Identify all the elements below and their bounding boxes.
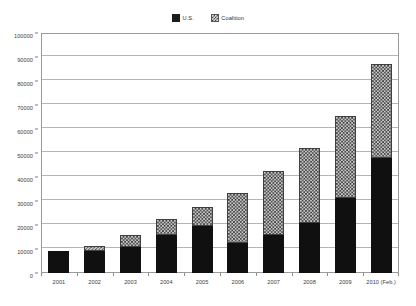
x-axis-tick-label: 2001 [53, 279, 66, 285]
gridline [42, 55, 398, 56]
x-axis-tick-mark [292, 273, 293, 276]
x-axis-tick-mark [220, 273, 221, 276]
stacked-bar-chart: U.S. Coalition 0100002000030000400005000… [0, 0, 416, 306]
x-axis-tick-mark [77, 273, 78, 276]
x-axis-tick-mark [256, 273, 257, 276]
x-axis-tick-label: 2008 [303, 279, 316, 285]
x-axis-tick-label: 2007 [267, 279, 280, 285]
x-axis-tick-mark [184, 273, 185, 276]
plot-area [41, 33, 399, 273]
x-axis-tick-mark [327, 273, 328, 276]
legend-swatch-solid-black-icon [172, 14, 180, 22]
x-axis-tick-label: 2005 [196, 279, 209, 285]
gridline [42, 247, 398, 248]
x-axis-tick-mark [363, 273, 364, 276]
chart-legend: U.S. Coalition [0, 11, 416, 25]
x-axis-tick-label: 2006 [232, 279, 245, 285]
x-axis-tick-label: 2004 [160, 279, 173, 285]
x-axis-tick-label: 2010 (Feb.) [366, 279, 395, 285]
gridline [42, 103, 398, 104]
y-axis-tick-mark [35, 81, 38, 82]
x-axis-tick-mark [148, 273, 149, 276]
y-axis-tick-mark [35, 153, 38, 154]
x-axis-tick-label: 2002 [88, 279, 101, 285]
gridline [42, 199, 398, 200]
x-axis-tick-mark [398, 273, 399, 276]
y-axis-tick-mark [35, 33, 38, 34]
legend-swatch-hatched-icon [211, 14, 219, 22]
gridline [42, 127, 398, 128]
legend-item-coalition: Coalition [211, 14, 244, 22]
gridline [42, 223, 398, 224]
figure-caption [48, 297, 408, 306]
x-axis-tick-label: 2003 [124, 279, 137, 285]
x-axis: 2001200220032004200520062007200820092010… [41, 273, 399, 295]
y-axis-tick-mark [35, 57, 38, 58]
x-axis-tick-label: 2009 [339, 279, 352, 285]
x-axis-tick-mark [113, 273, 114, 276]
y-axis-tick-mark [35, 105, 38, 106]
y-axis-tick-mark [35, 225, 38, 226]
y-axis-tick-mark [35, 129, 38, 130]
legend-item-us: U.S. [172, 14, 194, 22]
gridline [42, 175, 398, 176]
legend-label-coalition: Coalition [221, 15, 244, 21]
gridline [42, 151, 398, 152]
x-axis-tick-mark [41, 273, 42, 276]
legend-label-us: U.S. [183, 15, 194, 21]
y-axis-tick-mark [35, 249, 38, 250]
gridline [42, 79, 398, 80]
y-axis: 0100002000030000400005000060000700008000… [0, 33, 38, 273]
y-axis-tick-mark [35, 177, 38, 178]
y-axis-tick-mark [35, 201, 38, 202]
y-axis-tick-mark [35, 273, 38, 274]
